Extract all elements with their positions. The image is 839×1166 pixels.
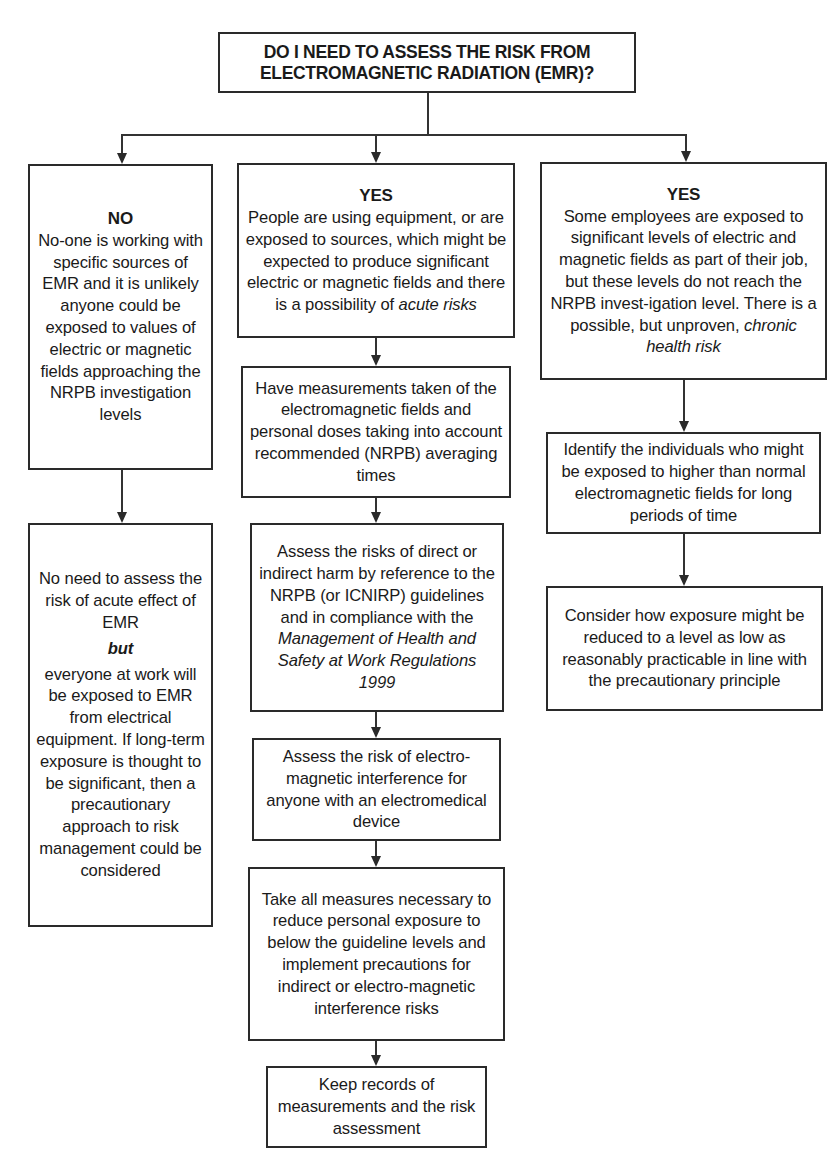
arrow-down-icon	[371, 1055, 381, 1066]
connector-middle-5-6	[375, 1041, 377, 1056]
left-heading: NO	[108, 208, 133, 230]
middle-box3-text: Assess the risks of direct or indirect h…	[258, 541, 496, 694]
middle-measurements-box: Have measurements taken of the electroma…	[241, 366, 511, 498]
arrow-down-icon	[117, 153, 127, 164]
arrow-down-icon	[679, 575, 689, 586]
connector-branch-horizontal	[121, 134, 687, 136]
middle-box5-text: Take all measures necessary to reduce pe…	[256, 889, 497, 1020]
left-box2-emphasis: but	[108, 638, 134, 660]
right-identify-box: Identify the individuals who might be ex…	[546, 432, 821, 534]
arrow-down-icon	[371, 856, 381, 867]
left-no-need-box: No need to assess the risk of acute effe…	[28, 523, 213, 927]
middle-box6-text: Keep records of measurements and the ris…	[274, 1074, 479, 1139]
top-question-box: DO I NEED TO ASSESS THE RISK FROM ELECTR…	[218, 32, 636, 93]
connector-to-left	[121, 134, 123, 154]
cropped-figure-title	[0, 0, 839, 6]
connector-middle-2-3	[375, 498, 377, 513]
middle-yes-acute-box: YES People are using equipment, or are e…	[237, 163, 515, 338]
middle-take-measures-box: Take all measures necessary to reduce pe…	[248, 867, 505, 1041]
middle-assess-harm-box: Assess the risks of direct or indirect h…	[250, 523, 504, 712]
connector-to-middle	[375, 134, 377, 153]
middle-keep-records-box: Keep records of measurements and the ris…	[266, 1066, 487, 1148]
right-heading: YES	[667, 184, 701, 206]
connector-right-2-3	[683, 534, 685, 576]
connector-right-1-2	[683, 380, 685, 422]
middle-box4-text: Assess the risk of electro-magnetic inte…	[260, 746, 493, 833]
top-question-line2: ELECTROMAGNETIC RADIATION (EMR)?	[260, 63, 594, 84]
top-question-line1: DO I NEED TO ASSESS THE RISK FROM	[264, 42, 591, 63]
right-consider-box: Consider how exposure might be reduced t…	[546, 586, 823, 711]
middle-box2-text: Have measurements taken of the electroma…	[249, 378, 503, 487]
right-yes-chronic-box: YES Some employees are exposed to signif…	[540, 162, 827, 380]
middle-box1-text: People are using equipment, or are expos…	[245, 207, 507, 316]
arrow-down-icon	[681, 151, 691, 162]
arrow-down-icon	[679, 421, 689, 432]
middle-heading: YES	[359, 185, 393, 207]
middle-box1-italic: acute risks	[399, 295, 477, 314]
arrow-down-icon	[371, 355, 381, 366]
connector-top-down	[427, 93, 429, 135]
connector-middle-1-2	[375, 338, 377, 356]
right-box3-text: Consider how exposure might be reduced t…	[554, 605, 815, 692]
arrow-down-icon	[117, 512, 127, 523]
connector-left-1-2	[121, 470, 123, 513]
left-no-box: NO No-one is working with specific sourc…	[28, 164, 213, 470]
connector-middle-4-5	[375, 841, 377, 857]
arrow-down-icon	[371, 512, 381, 523]
right-box1-text: Some employees are exposed to significan…	[548, 206, 819, 359]
right-box2-text: Identify the individuals who might be ex…	[554, 439, 813, 526]
arrow-down-icon	[371, 152, 381, 163]
connector-to-right	[685, 134, 687, 152]
middle-box3-italic: Management of Health and Safety at Work …	[278, 629, 476, 692]
left-box2-text-after: everyone at work will be exposed to EMR …	[36, 664, 205, 882]
middle-box3-main: Assess the risks of direct or indirect h…	[259, 542, 495, 626]
left-box2-text-before: No need to assess the risk of acute effe…	[36, 568, 205, 633]
middle-interference-box: Assess the risk of electro-magnetic inte…	[252, 738, 501, 841]
left-box1-text: No-one is working with specific sources …	[36, 230, 205, 426]
connector-middle-3-4	[375, 712, 377, 728]
arrow-down-icon	[371, 727, 381, 738]
